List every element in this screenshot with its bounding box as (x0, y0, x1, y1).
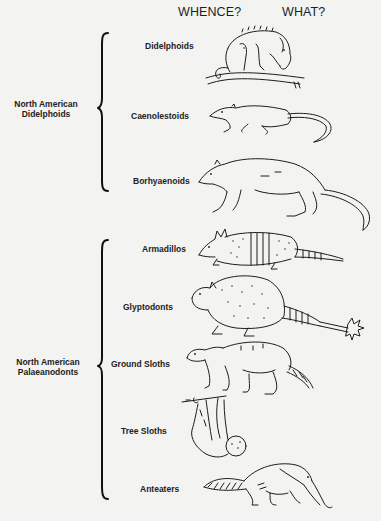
shrew-opossum-drawing-icon (200, 100, 340, 148)
group-label-line1: North American (8, 357, 88, 367)
group-label-palaeanodonts: North American Palaeanodonts (8, 357, 88, 377)
armadillo-drawing-icon (195, 225, 355, 275)
borhyaenid-drawing-icon (195, 152, 380, 232)
taxon-label-tree-sloths: Tree Sloths (121, 426, 167, 436)
anteater-drawing-icon (200, 455, 340, 515)
glyptodont-drawing-icon (188, 272, 378, 342)
group-label-didelphoids: North American Didelphoids (6, 99, 86, 119)
taxon-label-glyptodonts: Glyptodonts (123, 302, 173, 312)
group-label-line2: Palaeanodonts (8, 367, 88, 377)
header-what: WHAT? (282, 5, 325, 19)
taxon-label-caenolestoids: Caenolestoids (131, 111, 189, 121)
group-label-line2: Didelphoids (6, 109, 86, 119)
group-label-line1: North American (6, 99, 86, 109)
diagram-page: WHENCE? WHAT? North American Didelphoids… (0, 0, 381, 521)
brace-didelphoids-icon (96, 30, 112, 195)
opossum-drawing-icon (200, 26, 310, 96)
taxon-label-armadillos: Armadillos (142, 244, 186, 254)
taxon-label-ground-sloths: Ground Sloths (111, 359, 170, 369)
header-whence: WHENCE? (178, 5, 241, 19)
taxon-label-didelphoids: Didelphoids (145, 41, 194, 51)
taxon-label-anteaters: Anteaters (140, 484, 179, 494)
brace-palaeanodonts-icon (96, 236, 112, 506)
taxon-label-borhyaenoids: Borhyaenoids (133, 176, 190, 186)
